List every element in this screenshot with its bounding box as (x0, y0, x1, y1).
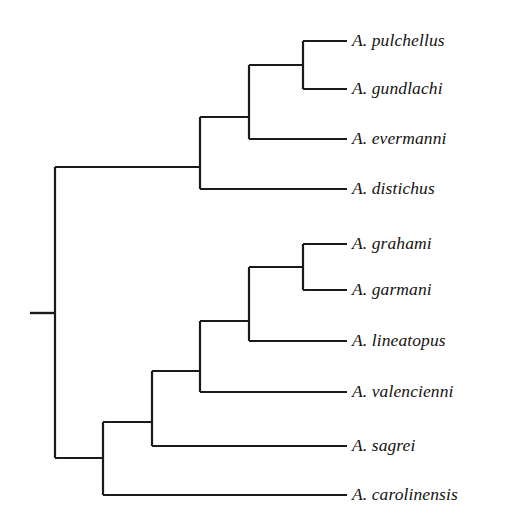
phylogenetic-tree-figure: A. pulchellusA. gundlachiA. evermanniA. … (0, 0, 505, 532)
tip-label-a-garmani: A. garmani (352, 281, 432, 299)
tip-label-a-sagrei: A. sagrei (352, 437, 415, 455)
tip-label-a-gundlachi: A. gundlachi (352, 80, 443, 98)
tip-label-a-lineatopus: A. lineatopus (352, 332, 446, 350)
tip-label-a-evermanni: A. evermanni (352, 130, 447, 148)
tip-label-a-grahami: A. grahami (352, 235, 432, 253)
tip-label-a-carolinensis: A. carolinensis (352, 486, 458, 504)
tip-label-a-valencienni: A. valencienni (352, 383, 454, 401)
tip-label-a-distichus: A. distichus (352, 180, 435, 198)
tip-label-a-pulchellus: A. pulchellus (352, 32, 445, 50)
